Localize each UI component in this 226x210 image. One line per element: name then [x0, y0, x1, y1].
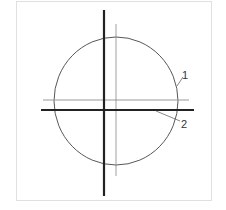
callout-label-2: 2 [181, 118, 187, 130]
diagram-canvas: 1 2 [0, 0, 226, 210]
callout-label-1: 1 [182, 69, 188, 81]
